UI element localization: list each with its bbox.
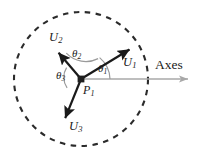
center-point-label-base: P xyxy=(83,83,90,97)
angle-label-theta2: θ2 xyxy=(72,48,81,60)
axes-label: Axes xyxy=(155,58,183,72)
vector-label-u2: U2 xyxy=(49,31,62,44)
vector-label-u1-sub: 1 xyxy=(132,60,136,70)
vector-label-u2-sub: 2 xyxy=(58,35,62,45)
angle-label-theta3-base: θ xyxy=(56,69,61,81)
center-point-label-sub: 1 xyxy=(91,89,95,98)
vector-angle-diagram: U1 U2 U3 θ1 θ2 θ3 P1 Axes xyxy=(0,0,197,159)
center-point-marker xyxy=(78,76,85,83)
vector-arrow-u3 xyxy=(65,79,81,118)
vector-label-u3: U3 xyxy=(69,120,82,133)
diagram-canvas xyxy=(0,0,197,159)
vector-label-u3-sub: 3 xyxy=(78,124,82,134)
vector-label-u1: U1 xyxy=(123,56,136,69)
angle-label-theta1-base: θ xyxy=(98,62,103,74)
angle-label-theta1-sub: 1 xyxy=(104,67,108,76)
center-point-label: P1 xyxy=(83,84,95,98)
vector-label-u2-base: U xyxy=(49,30,58,44)
angle-label-theta2-base: θ xyxy=(72,47,77,59)
angle-label-theta3: θ3 xyxy=(56,70,65,82)
vector-label-u1-base: U xyxy=(123,55,132,69)
angle-label-theta1: θ1 xyxy=(98,63,107,75)
vector-label-u3-base: U xyxy=(69,119,78,133)
angle-label-theta3-sub: 3 xyxy=(62,74,66,83)
angle-label-theta2-sub: 2 xyxy=(78,52,82,61)
